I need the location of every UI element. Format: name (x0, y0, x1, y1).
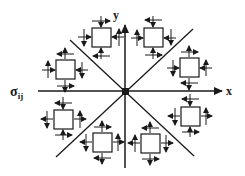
stress-element-top-left (78, 16, 124, 59)
stress-tensor-label: σij (10, 84, 23, 101)
diagonal-line-nw-se (70, 40, 194, 156)
stress-element-top-right (131, 16, 176, 59)
stress-element-left-lower (41, 97, 86, 140)
origin-marker (122, 88, 129, 95)
stress-element-bottom-right (128, 122, 173, 165)
stress-element-left-upper (42, 48, 88, 92)
x-axis-label: x (226, 84, 232, 98)
stress-state-diagram: x y σij (0, 0, 245, 176)
sigma-subscript: ij (18, 91, 24, 101)
stress-element-right-lower (168, 94, 212, 137)
y-axis-label: y (113, 8, 119, 22)
stress-element-right-upper (167, 46, 212, 90)
stress-element-bottom-left (80, 121, 124, 164)
